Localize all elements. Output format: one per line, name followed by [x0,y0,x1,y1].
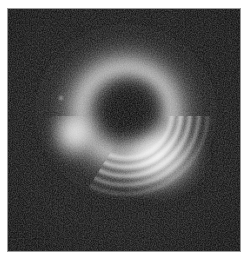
sensor-noise-layer [8,9,240,251]
image-frame [7,8,241,252]
figure-root [0,0,248,261]
grayscale-ring-image [8,9,240,251]
